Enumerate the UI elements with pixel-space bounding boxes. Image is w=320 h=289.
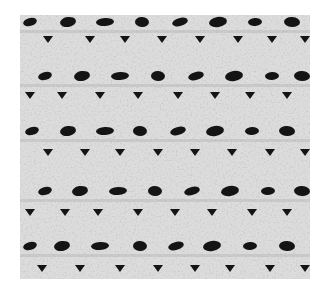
row-ridge [20, 199, 310, 202]
row-ridge [20, 139, 310, 142]
fabric-texture [20, 15, 310, 279]
row-ridge [20, 30, 310, 33]
row-ridge [20, 84, 310, 87]
row-ridge [20, 254, 310, 257]
crochet-swatch [0, 0, 320, 289]
